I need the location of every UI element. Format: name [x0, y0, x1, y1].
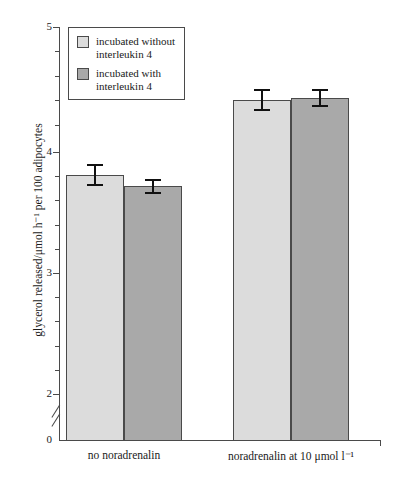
- x-tick-label-noradrenalin: noradrenalin at 10 μmol l⁻¹: [219, 449, 363, 463]
- y-axis-line: [59, 27, 60, 440]
- x-axis-end-tick: [380, 440, 381, 446]
- bar-noradrenalin-without-il4[interactable]: [233, 100, 291, 441]
- y-minor-tick: [55, 76, 60, 77]
- y-minor-tick: [55, 321, 60, 322]
- legend: incubated without interleukin 4 incubate…: [68, 27, 185, 100]
- bar-chart-figure: 5 4 3 2 0 incubated withou: [0, 0, 393, 484]
- y-tick-label-0: 0: [36, 434, 52, 445]
- y-tick-2: [53, 394, 60, 395]
- y-tick-3: [53, 273, 60, 274]
- y-minor-tick: [55, 225, 60, 226]
- error-bar-noradrenalin-with-il4: [312, 89, 328, 107]
- bar-no-noradrenalin-with-il4[interactable]: [124, 186, 182, 441]
- x-axis-line: [59, 440, 381, 441]
- y-minor-tick: [55, 346, 60, 347]
- legend-swatch-icon-with-il4: [77, 68, 89, 80]
- y-minor-tick: [55, 370, 60, 371]
- bar-no-noradrenalin-without-il4[interactable]: [66, 175, 124, 441]
- y-axis-title: glycerol released/μmol h⁻¹ per 100 adipo…: [31, 115, 45, 345]
- y-minor-tick: [55, 200, 60, 201]
- legend-label-without-il4: incubated without interleukin 4: [96, 35, 175, 60]
- y-tick-label-5: 5: [36, 21, 52, 32]
- legend-item-without-il4: incubated without interleukin 4: [77, 35, 175, 60]
- y-minor-tick: [55, 297, 60, 298]
- y-tick-5: [53, 27, 60, 28]
- y-minor-tick: [55, 100, 60, 101]
- y-minor-tick: [55, 125, 60, 126]
- y-tick-label-2: 2: [36, 388, 52, 399]
- legend-label-with-il4: incubated with interleukin 4: [96, 67, 161, 92]
- legend-item-with-il4: incubated with interleukin 4: [77, 67, 175, 92]
- y-minor-tick: [55, 176, 60, 177]
- y-tick-4: [53, 152, 60, 153]
- bar-noradrenalin-with-il4[interactable]: [291, 98, 349, 441]
- y-minor-tick: [55, 51, 60, 52]
- error-bar-no-noradrenalin-with-il4: [145, 179, 161, 194]
- y-minor-tick: [55, 249, 60, 250]
- legend-swatch-icon-without-il4: [77, 36, 89, 48]
- x-tick-label-no-noradrenalin: no noradrenalin: [66, 449, 182, 461]
- error-bar-no-noradrenalin-without-il4: [87, 164, 103, 186]
- error-bar-noradrenalin-without-il4: [254, 89, 270, 111]
